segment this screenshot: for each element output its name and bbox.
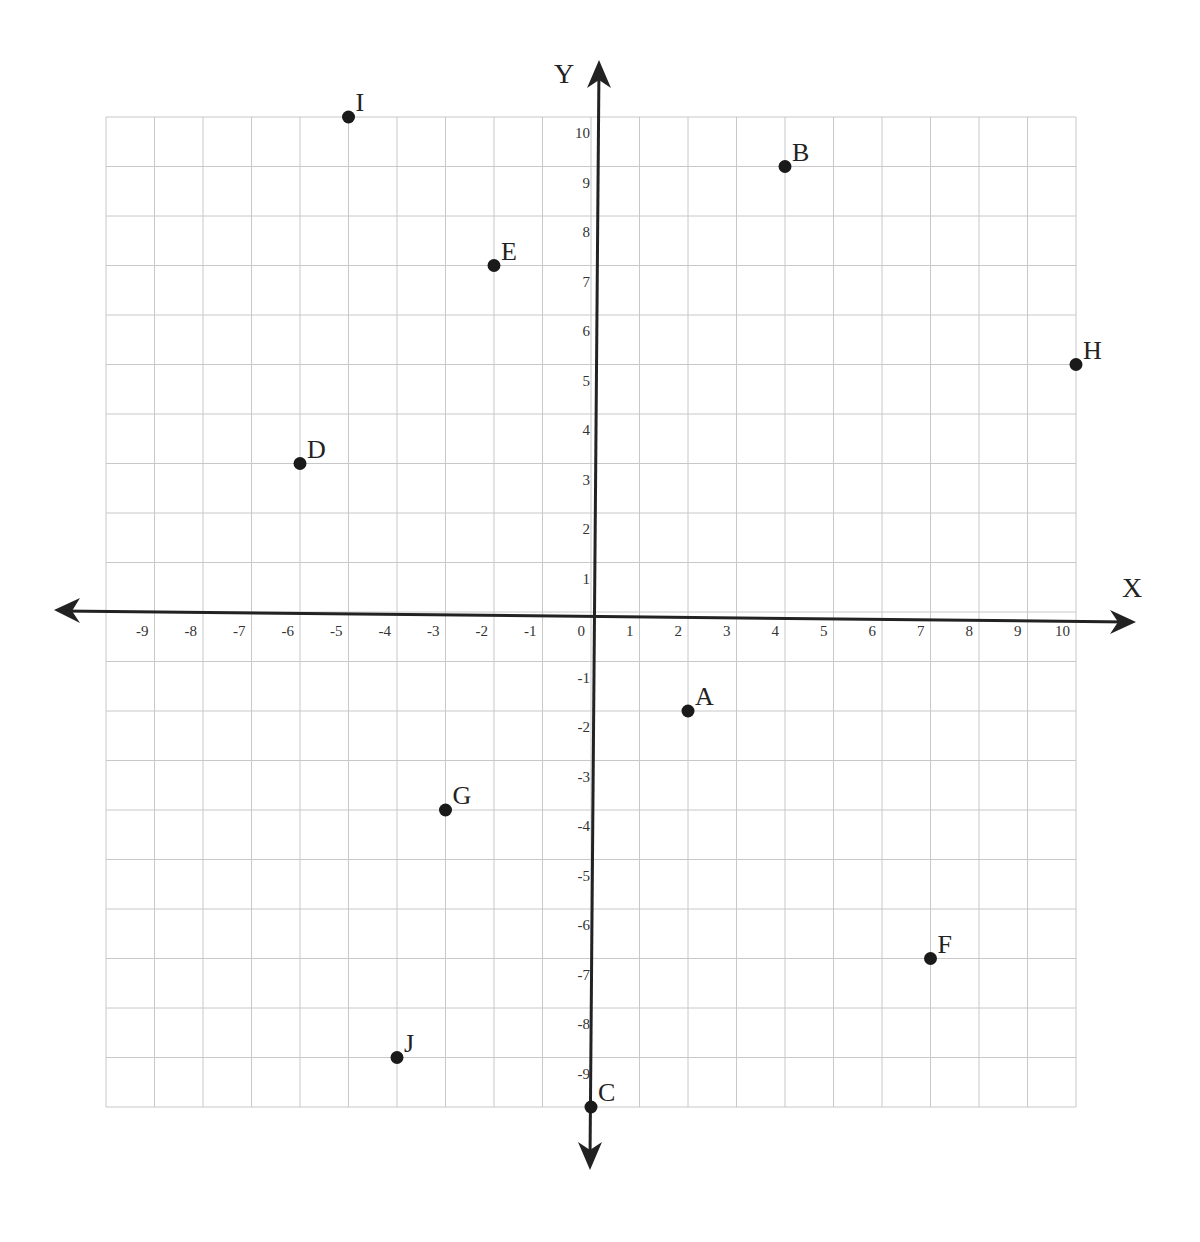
x-tick-label: 0 (578, 623, 586, 639)
x-tick-label: 9 (1014, 623, 1022, 639)
y-tick-label: 3 (583, 472, 591, 488)
x-tick-label: -3 (427, 623, 440, 639)
point-marker-icon (488, 259, 501, 272)
x-tick-label: 3 (723, 623, 731, 639)
x-axis-title: X (1122, 572, 1142, 603)
y-tick-label: -9 (578, 1066, 591, 1082)
point-marker-icon (924, 952, 937, 965)
y-tick-label: -1 (578, 670, 591, 686)
point-marker-icon (439, 804, 452, 817)
x-tick-labels: -9-8-7-6-5-4-3-2-1012345678910 (136, 623, 1070, 639)
y-axis-title: Y (554, 58, 574, 89)
data-point-e: E (488, 237, 517, 273)
point-label: D (307, 435, 326, 464)
y-tick-label: 6 (583, 323, 591, 339)
x-tick-label: -1 (524, 623, 537, 639)
data-point-b: B (779, 138, 810, 174)
y-tick-label: 9 (583, 175, 591, 191)
data-point-h: H (1070, 336, 1103, 372)
data-point-d: D (294, 435, 326, 471)
data-points: ABCDEFGHIJ (294, 88, 1103, 1114)
y-tick-label: 8 (583, 224, 591, 240)
x-tick-label: -7 (233, 623, 246, 639)
y-tick-label: -4 (578, 818, 591, 834)
data-point-g: G (439, 781, 471, 817)
x-tick-label: 6 (869, 623, 877, 639)
data-point-a: A (682, 682, 715, 718)
point-label: E (501, 237, 517, 266)
point-marker-icon (342, 111, 355, 124)
coordinate-plane: X Y -9-8-7-6-5-4-3-2-1012345678910 10987… (0, 0, 1200, 1242)
point-label: C (598, 1078, 615, 1107)
point-marker-icon (585, 1101, 598, 1114)
y-tick-label: -7 (578, 967, 591, 983)
data-point-j: J (391, 1029, 415, 1065)
x-tick-label: -4 (379, 623, 392, 639)
x-tick-label: 2 (675, 623, 683, 639)
x-tick-label: 7 (917, 623, 925, 639)
x-tick-label: -8 (185, 623, 198, 639)
x-tick-label: -6 (282, 623, 295, 639)
y-tick-label: -5 (578, 868, 591, 884)
x-tick-label: -9 (136, 623, 149, 639)
x-tick-label: 5 (820, 623, 828, 639)
point-label: H (1083, 336, 1102, 365)
y-tick-labels: 10987654321-1-2-3-4-5-6-7-8-9 (575, 125, 591, 1082)
x-tick-label: 8 (966, 623, 974, 639)
point-label: A (695, 682, 714, 711)
point-label: F (938, 930, 952, 959)
y-tick-label: -8 (578, 1016, 591, 1032)
point-label: B (792, 138, 809, 167)
point-marker-icon (682, 705, 695, 718)
y-tick-label: 4 (583, 422, 591, 438)
point-marker-icon (779, 160, 792, 173)
point-label: J (404, 1029, 414, 1058)
x-tick-label: 10 (1055, 623, 1070, 639)
y-tick-label: 2 (583, 521, 591, 537)
y-tick-label: 7 (583, 274, 591, 290)
x-tick-label: 1 (626, 623, 634, 639)
y-tick-label: 5 (583, 373, 591, 389)
y-tick-label: 1 (583, 571, 591, 587)
data-point-f: F (924, 930, 952, 966)
point-marker-icon (294, 457, 307, 470)
point-label: I (356, 88, 365, 117)
point-label: G (453, 781, 472, 810)
x-tick-label: 4 (772, 623, 780, 639)
data-point-i: I (342, 88, 364, 124)
y-tick-label: -6 (578, 917, 591, 933)
y-tick-label: -2 (578, 719, 591, 735)
point-marker-icon (391, 1051, 404, 1064)
y-tick-label: -3 (578, 769, 591, 785)
x-tick-label: -2 (476, 623, 489, 639)
y-tick-label: 10 (575, 125, 590, 141)
x-tick-label: -5 (330, 623, 343, 639)
point-marker-icon (1070, 358, 1083, 371)
